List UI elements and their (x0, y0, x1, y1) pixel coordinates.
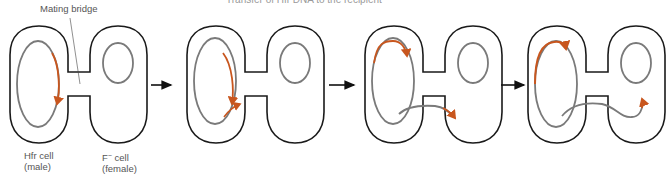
panel-1 (10, 18, 147, 143)
conjugation-diagram: Transfer of Hfr DNA to the recipient (0, 0, 669, 179)
hfr-cell-label-line1: Hfr cell (24, 150, 54, 161)
panel-2 (187, 26, 324, 143)
mating-bridge-pointer (70, 18, 80, 84)
hfr-cell-label-line2: (male) (24, 161, 54, 172)
f-minus-cell-label: F− cell (female) (102, 150, 137, 174)
panel-3 (365, 26, 502, 143)
cell-word: cell (112, 152, 129, 163)
hfr-chromosome (372, 38, 414, 124)
transfer-dna (223, 53, 233, 104)
diagram-canvas: Transfer of Hfr DNA to the recipient (0, 0, 669, 179)
f-minus-cell-label-line1: F− cell (102, 150, 137, 163)
figure-title-cropped: Transfer of Hfr DNA to the recipient (226, 0, 382, 5)
panel-4 (528, 26, 665, 143)
hfr-chromosome (535, 41, 577, 127)
hfr-cell-label: Hfr cell (male) (24, 150, 54, 172)
transfer-dna (374, 41, 407, 63)
mating-bridge-label: Mating bridge (40, 3, 98, 14)
transfer-dna (52, 53, 59, 104)
transfer-dna-tip (642, 99, 643, 108)
transfer-dna (535, 42, 566, 84)
f-minus-cell-label-line2: (female) (102, 163, 137, 174)
